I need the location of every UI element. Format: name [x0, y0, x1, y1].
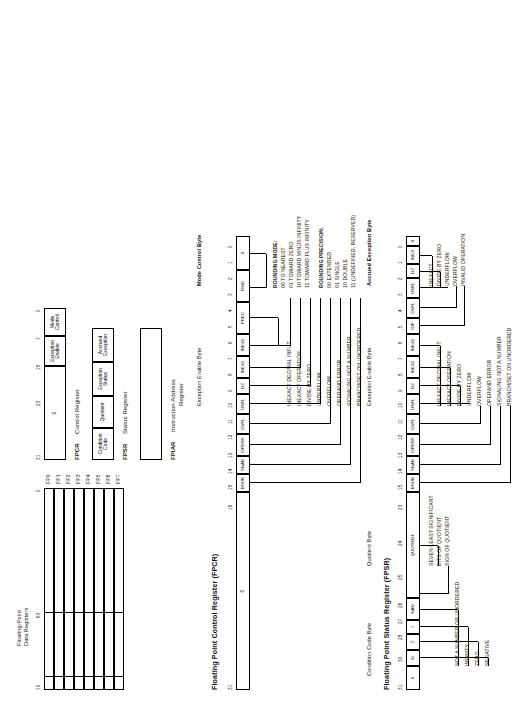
leader-unfl: [250, 403, 320, 404]
leader-fpsr-ovfl-h: [480, 406, 481, 424]
fpdata-tick-0: 0: [36, 489, 41, 492]
leader-fpsr-snan: [420, 464, 500, 465]
rounding-mode-option: 11 TOWARD PLUS INFINITY: [304, 219, 310, 288]
leader-dz: [250, 385, 310, 386]
leader-inex2: [250, 367, 300, 368]
fpsr-cc-n: N: [406, 650, 420, 666]
fpsr-bitnum: 5: [398, 325, 403, 328]
leader-fpsr-dz: [420, 385, 460, 386]
fpcr-bitnum: 15: [228, 485, 233, 490]
fpsr-bitnum: 7: [398, 357, 403, 360]
fpsr-cc-note: NOT A NUMBER OR UNORDERED: [454, 582, 460, 666]
leader-snan: [250, 464, 350, 465]
fp-register-name: FP1: [55, 474, 61, 484]
fpcr-mode-control-cell: Mode Control: [44, 308, 66, 336]
fpsr-bitnum: 3: [398, 293, 403, 296]
fpcr-bitnum: 2: [228, 277, 233, 280]
fpcr-field-ovfl: OVFL: [236, 414, 250, 434]
fpcr-mode-control-line2: Control: [55, 314, 60, 330]
fpcr-exc-desc: INEXACT DECIMAL INPUT: [286, 341, 292, 406]
fpcr-field-zero: 0: [236, 236, 250, 270]
fpsr-field-operr: OPERR: [406, 434, 420, 456]
leader-acc-iop-h: [464, 286, 465, 326]
leader-inex1-h: [290, 298, 291, 346]
fpcr-bitnum: 14: [228, 469, 233, 474]
fpsr-exc-desc: OPERAND ERROR: [486, 360, 492, 406]
fpsr-acc-desc: INVALID OPERATION: [460, 234, 466, 286]
leader-quotient-sign: [420, 593, 448, 594]
fp-register-row: [54, 488, 64, 690]
fpsr-bitnum: 8: [398, 373, 403, 376]
fpsr-field-bsun: BSUN: [406, 474, 420, 492]
fpsr-exc-line2: Status: [103, 372, 108, 386]
fpcr-name: Control Register: [74, 389, 80, 434]
fpsr-exc-desc: DIVIDE BY ZERO: [456, 364, 462, 406]
fpcr-bitnum: 10: [228, 403, 233, 408]
fpcr-detail-zero-field: 0: [236, 492, 250, 690]
leader-cc-nan: [420, 609, 458, 610]
fpcr-full-name: Floating Point Control Register (FPCR): [210, 554, 219, 690]
fpsr-exc-desc: OVERFLOW: [476, 376, 482, 406]
fpsr-mnemonic: FPSR: [122, 444, 128, 460]
fpcr-field-inex1: INEX1: [236, 334, 250, 356]
fpsr-field-iop: IOP: [406, 318, 420, 334]
rounding-precision-option: 10 DOUBLE: [342, 259, 348, 288]
fpcr-mode-control-byte-label: Mode Control Byte: [196, 235, 202, 286]
fpcr-exc-desc: OPERAND ERROR: [336, 360, 342, 406]
fpcr-bitnum: 12: [228, 435, 233, 440]
leader-rnd-v2: [250, 287, 266, 288]
fpsr-acc-desc: OVERFLOW: [452, 256, 458, 286]
leader-prec: [250, 317, 278, 318]
fpcr-bitnum: 8: [228, 373, 233, 376]
fpcr-detail-tick-16: 16: [228, 505, 233, 510]
fpsr-tick-24: 24: [398, 541, 403, 546]
fpsr-acc-line2: Exception: [103, 334, 108, 356]
fpsr-acc-desc: DIVIDE BY ZERO: [436, 244, 442, 286]
fp-register-row: [114, 488, 124, 690]
leader-inex1: [250, 345, 290, 346]
leader-acc-unfl: [420, 287, 448, 288]
fpsr-tick-31: 31: [398, 685, 403, 690]
fpsr-bitnum: 2: [398, 277, 403, 280]
fpsr-exc-desc: BRANCH/SET ON UNORDERED: [506, 328, 512, 406]
fpdata-divider-mantissa: [44, 612, 124, 613]
fpcr-exception-enable-line2: Enable: [55, 343, 60, 359]
fpsr-field-ovfl: OVFL: [406, 414, 420, 434]
fp-register-name: FP3: [75, 474, 81, 484]
fpsr-condition-code-cell: Condition Code: [92, 428, 114, 460]
leader-quotient-sign-h: [448, 566, 449, 594]
fpsr-field-acc-unfl: UNFL: [406, 278, 420, 298]
fpsr-bitnum: 15: [398, 485, 403, 490]
fpsr-name: Status Register: [122, 391, 128, 434]
fpsr-exc-desc: INEXACT OPERATION: [446, 351, 452, 406]
fp-register-name: FP0: [45, 474, 51, 484]
leader-rnd: [250, 253, 266, 254]
fpiar-register-box: [140, 328, 162, 460]
fpcr-bitnum: 7: [228, 357, 233, 360]
rounding-precision-option: 01 SINGLE: [334, 261, 340, 288]
leader-acc-ovfl: [420, 307, 456, 308]
fpsr-quotient-note: BITS OF QUOTIENT: [436, 517, 442, 566]
fpsr-bitnum: 6: [398, 341, 403, 344]
fpiar-mnemonic: FPIAR: [170, 442, 176, 461]
fpsr-field-acc-inex: INEX: [406, 246, 420, 264]
fpsr-exception-status-cell: Exception Status: [92, 362, 114, 396]
fpsr-cc-zero: 0: [406, 666, 420, 690]
fpsr-bitnum: 14: [398, 469, 403, 474]
fpsr-quotient-note: SEVEN LEAST SIGNIFICANT: [428, 495, 434, 566]
fpcr-exc-desc: DIVIDE BY ZERO: [306, 364, 312, 406]
leader-fpsr-unfl: [420, 403, 470, 404]
fpsr-tick-28: 28: [398, 635, 403, 640]
leader-operr: [250, 444, 340, 445]
fp-register-row: [94, 488, 104, 690]
fpsr-exception-status-byte-label: Exception Enable Byte: [366, 348, 372, 406]
leader-acc-inex: [420, 255, 432, 256]
leader-acc-ovfl-h: [456, 286, 457, 308]
fpcr-field-rnd: RND: [236, 270, 250, 302]
fpsr-cc-line2: Code: [103, 438, 108, 450]
leader-fpsr-operr-h: [490, 406, 491, 445]
fpdata-tick-63: 63: [36, 613, 41, 618]
fpcr-zero-field: 0: [44, 366, 66, 460]
fpsr-bitnum: 9: [398, 389, 403, 392]
fpsr-quotient-cell: Quotient: [92, 396, 114, 428]
